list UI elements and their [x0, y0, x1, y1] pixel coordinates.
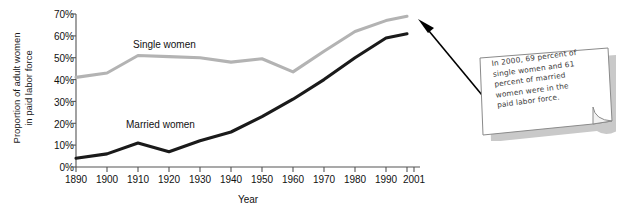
- x-tick-label: 1970: [307, 174, 341, 185]
- x-tick-label: 1960: [276, 174, 310, 185]
- x-tick-label: 1980: [338, 174, 372, 185]
- chart-figure: Proportion of adult women in paid labor …: [0, 0, 629, 215]
- series-label-married-women: Married women: [126, 119, 195, 130]
- x-tick-label: 1940: [214, 174, 248, 185]
- x-tick-label: 1900: [90, 174, 124, 185]
- series-line-married-women: [76, 34, 407, 159]
- series-line-single-women: [76, 16, 407, 77]
- x-axis-title: Year: [206, 194, 290, 205]
- callout-note: In 2000, 69 percent of single women and …: [477, 47, 616, 141]
- x-tick-label: 1910: [121, 174, 155, 185]
- x-tick-label: 1890: [59, 174, 93, 185]
- x-tick-label: 1930: [183, 174, 217, 185]
- callout-arrow: [418, 19, 482, 95]
- x-tick-label: 2001: [397, 174, 431, 185]
- x-tick-label: 1950: [245, 174, 279, 185]
- series-label-single-women: Single women: [133, 39, 196, 50]
- x-axis-ticks: [76, 167, 414, 172]
- y-axis-ticks: [71, 14, 76, 167]
- x-tick-label: 1920: [152, 174, 186, 185]
